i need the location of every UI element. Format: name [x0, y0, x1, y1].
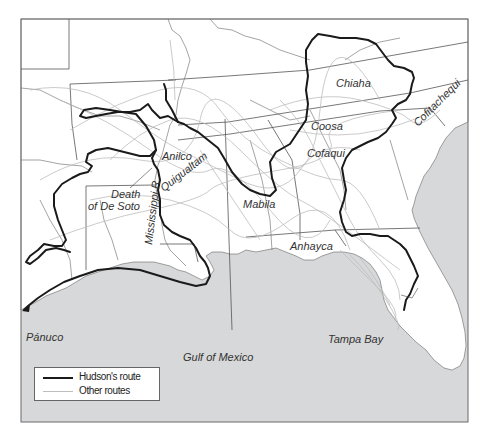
label-tampa-bay: Tampa Bay	[328, 333, 385, 345]
label-gulf-of-mexico: Gulf of Mexico	[183, 351, 253, 363]
label-anhayca: Anhayca	[289, 240, 333, 252]
label-cofaqui: Cofaqui	[307, 147, 345, 159]
label-death-line1: Death	[111, 188, 140, 200]
thick-line-swatch-icon	[43, 377, 73, 379]
label-chiaha: Chiaha	[336, 77, 371, 89]
legend: Hudson's route Other routes	[34, 367, 160, 401]
legend-label-other-routes: Other routes	[79, 385, 130, 396]
legend-item-hudsons-route: Hudson's route	[35, 371, 159, 385]
legend-label-hudsons-route: Hudson's route	[79, 371, 140, 382]
label-mabila: Mabila	[243, 198, 275, 210]
thin-line-swatch-icon	[43, 391, 73, 392]
label-panuco: Pánuco	[26, 331, 63, 343]
label-death-line2: of De Soto	[88, 200, 140, 212]
legend-item-other-routes: Other routes	[35, 385, 159, 399]
label-coosa: Coosa	[311, 120, 343, 132]
